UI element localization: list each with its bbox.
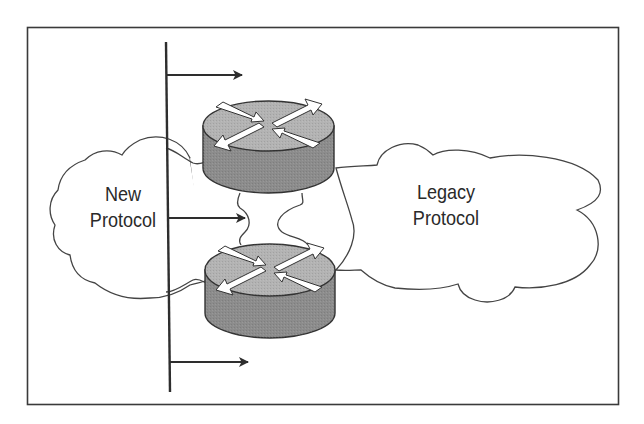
legacy-protocol-label: Legacy Protocol <box>394 179 497 231</box>
new-protocol-label-line1: New <box>80 181 166 207</box>
router-bottom <box>205 243 335 338</box>
new-protocol-label-line2: Protocol <box>80 207 166 233</box>
legacy-protocol-label-line2: Protocol <box>394 205 497 231</box>
new-protocol-label: New Protocol <box>80 181 166 233</box>
legacy-protocol-label-line1: Legacy <box>394 179 497 205</box>
router-top <box>203 99 334 193</box>
